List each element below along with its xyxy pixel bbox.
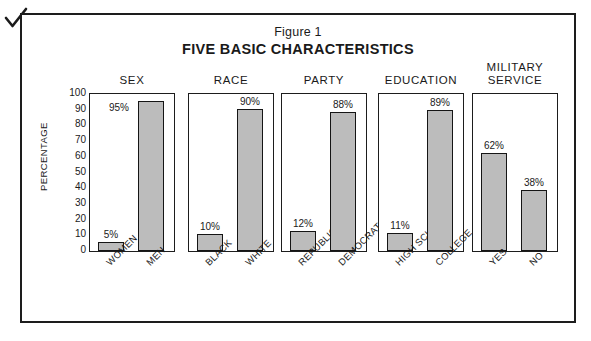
y-tick-label: 0 (60, 245, 86, 255)
bar (330, 112, 356, 251)
bar-value-label: 12% (283, 218, 323, 229)
bar-value-label: 62% (474, 140, 514, 151)
bar-value-label: 95% (104, 102, 134, 113)
figure-frame: Figure 1 FIVE BASIC CHARACTERISTICS PERC… (20, 13, 576, 323)
figure-label: Figure 1 (22, 25, 574, 39)
y-tick-label: 100 (60, 88, 86, 98)
y-tick-label: 80 (60, 119, 86, 129)
y-axis-tick-labels: 1009080706050403020100 (58, 15, 86, 321)
bar-value-label: 89% (420, 97, 460, 108)
y-tick-label: 20 (60, 214, 86, 224)
y-tick-label: 60 (60, 151, 86, 161)
y-tick-label: 10 (60, 229, 86, 239)
bar-value-label: 10% (190, 221, 230, 232)
panel-title: SEX (75, 74, 189, 87)
bar-value-label: 11% (380, 220, 420, 231)
bar (521, 190, 547, 251)
panel-title: MILITARY SERVICE (458, 61, 572, 87)
y-tick-label: 40 (60, 182, 86, 192)
y-tick-label: 50 (60, 167, 86, 177)
y-tick-label: 30 (60, 198, 86, 208)
bar (138, 101, 164, 251)
bar (427, 110, 453, 251)
y-axis-title: PERCENTAGE (38, 112, 49, 202)
x-category-label: NO (527, 249, 545, 267)
bar (237, 109, 263, 251)
bar (481, 153, 507, 251)
bar-value-label: 88% (323, 99, 363, 110)
bar-value-label: 38% (514, 177, 554, 188)
y-tick-label: 90 (60, 104, 86, 114)
y-tick-label: 70 (60, 135, 86, 145)
page-title: FIVE BASIC CHARACTERISTICS (22, 41, 574, 57)
bar-value-label: 90% (230, 96, 270, 107)
